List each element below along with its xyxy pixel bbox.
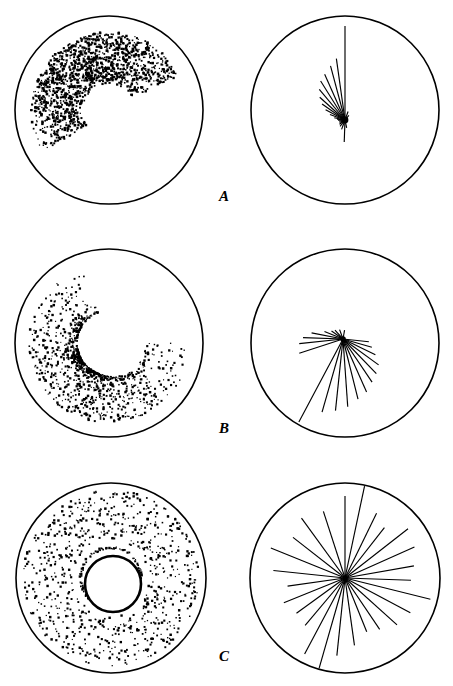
- scatter-diagram-c: [0, 458, 226, 686]
- radial-panel-b: [226, 229, 452, 458]
- radial-diagram-c: [226, 458, 452, 686]
- row-label-c: C: [219, 648, 230, 665]
- radial-diagram-b: [226, 229, 452, 458]
- radial-panel-c: [226, 458, 452, 686]
- radial-diagram-a: [226, 0, 452, 229]
- row-label-b: B: [219, 420, 230, 437]
- scatter-panel-c: [0, 458, 226, 686]
- scatter-diagram-a: [0, 0, 226, 229]
- radial-panel-a: [226, 0, 452, 229]
- scatter-diagram-b: [0, 229, 226, 458]
- scatter-panel-a: [0, 0, 226, 229]
- scatter-panel-b: [0, 229, 226, 458]
- figure-root: A B C: [0, 0, 453, 686]
- row-label-a: A: [219, 188, 230, 205]
